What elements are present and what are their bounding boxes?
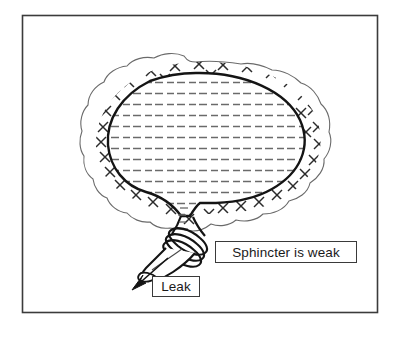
label-sphincter-is-weak: Sphincter is weak (215, 241, 357, 263)
label-sphincter-text: Sphincter is weak (232, 245, 340, 260)
label-leak-text: Leak (161, 279, 191, 294)
bladder-leak-diagram: Sphincter is weak Leak (0, 0, 404, 337)
diagram-canvas (0, 0, 404, 337)
label-leak: Leak (152, 276, 200, 297)
